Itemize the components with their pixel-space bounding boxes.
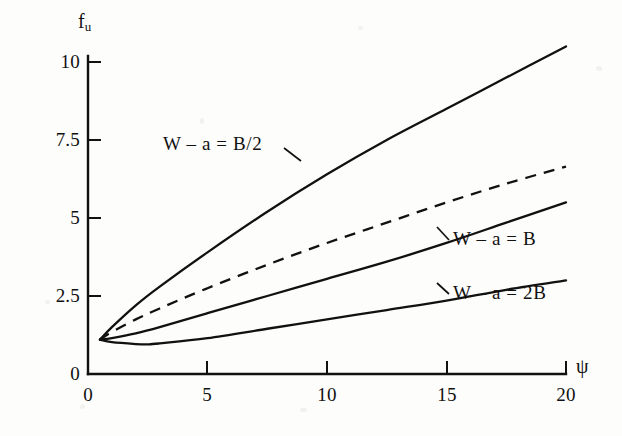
- annotation-w-a-2b: W – a = 2B: [453, 282, 546, 304]
- x-tick-label-0: 0: [68, 384, 108, 406]
- y-tick-label-7-5: 7.5: [24, 129, 80, 151]
- y-axis-title-text: f: [78, 10, 85, 32]
- x-tick-label-5: 5: [187, 384, 227, 406]
- curve-dashed-unlabeled: [100, 167, 566, 340]
- leader-line-2b: [437, 283, 449, 294]
- leader-line-b-half: [284, 148, 301, 161]
- y-tick-label-5: 5: [24, 207, 80, 229]
- y-axis-title: fu: [78, 10, 91, 33]
- figure-container: fu ψ 10 7.5 5 2.5 0 0 5 10 15 20 W – a =…: [0, 0, 622, 436]
- annotation-w-a-b-half: W – a = B/2: [163, 133, 262, 155]
- chart-plot-area: [0, 0, 622, 436]
- x-axis-title: ψ: [576, 355, 589, 378]
- y-axis-title-subscript: u: [85, 19, 92, 34]
- annotation-w-a-b: W – a = B: [453, 228, 536, 250]
- y-tick-label-0: 0: [24, 363, 80, 385]
- y-tick-label-10: 10: [24, 51, 80, 73]
- leader-line-b: [437, 227, 449, 240]
- x-tick-label-20: 20: [546, 384, 586, 406]
- x-tick-label-10: 10: [307, 384, 347, 406]
- y-tick-label-2-5: 2.5: [24, 285, 80, 307]
- x-tick-label-15: 15: [427, 384, 467, 406]
